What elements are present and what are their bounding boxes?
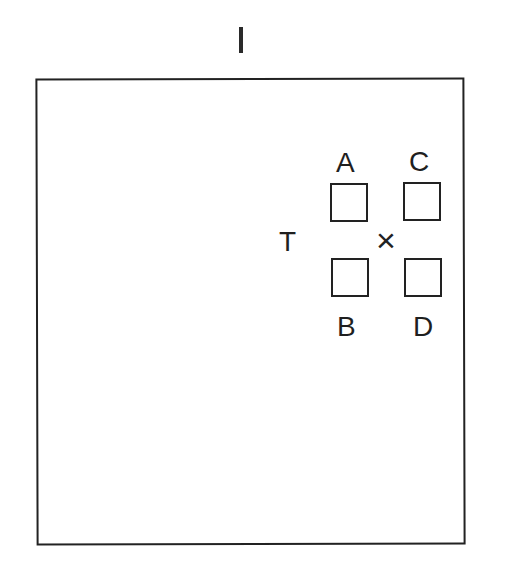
label-b: B: [337, 313, 356, 341]
label-d: D: [413, 313, 433, 341]
center-x-marker: ×: [376, 225, 396, 255]
label-a: A: [336, 149, 355, 177]
display-frame: [35, 77, 465, 545]
label-t: T: [279, 228, 296, 256]
title-mark-i: [239, 27, 243, 53]
square-a: [330, 183, 368, 222]
square-c: [403, 182, 441, 221]
label-c: C: [409, 148, 429, 176]
square-d: [404, 258, 442, 297]
square-b: [331, 258, 369, 297]
